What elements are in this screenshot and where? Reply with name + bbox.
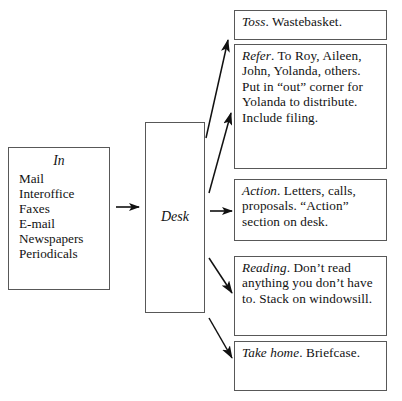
output-lead-reading: Reading [242,260,287,275]
output-body-take-home: . Briefcase. [299,345,360,360]
output-text-refer: Refer. To Roy, Aileen, John, Yolanda, ot… [242,48,381,125]
output-text-reading: Reading. Don’t read anything you don’t h… [242,260,381,306]
output-text-take-home: Take home. Briefcase. [242,345,381,360]
output-lead-refer: Refer [242,48,271,63]
arrow-desk-to-reading [209,258,232,293]
in-box-item: Faxes [19,201,109,216]
in-box-list: Mail Interoffice Faxes E-mail Newspapers… [9,171,109,261]
flow-diagram: In Mail Interoffice Faxes E-mail Newspap… [0,0,402,401]
output-body-toss: . Wastebasket. [265,14,342,29]
in-box: In Mail Interoffice Faxes E-mail Newspap… [8,147,110,290]
in-box-item: Periodicals [19,246,109,261]
output-box-toss: Toss. Wastebasket. [234,10,387,40]
in-box-item: Newspapers [19,231,109,246]
output-lead-toss: Toss [242,14,265,29]
output-lead-take-home: Take home [242,345,299,360]
in-box-item: E-mail [19,216,109,231]
in-box-item: Interoffice [19,186,109,201]
output-lead-action: Action [242,183,277,198]
output-box-action: Action. Letters, calls, proposals. “Acti… [234,179,387,241]
arrow-desk-to-take-home [209,318,232,358]
desk-box: Desk [145,122,205,313]
in-box-title: In [9,153,109,169]
arrow-desk-to-toss [206,40,228,138]
desk-box-label: Desk [161,209,189,225]
output-box-refer: Refer. To Roy, Aileen, John, Yolanda, ot… [234,44,387,169]
output-box-reading: Reading. Don’t read anything you don’t h… [234,256,387,336]
in-box-item: Mail [19,171,109,186]
output-text-toss: Toss. Wastebasket. [242,14,381,29]
output-text-action: Action. Letters, calls, proposals. “Acti… [242,183,381,229]
output-box-take-home: Take home. Briefcase. [234,341,387,391]
arrow-desk-to-refer [209,113,231,193]
